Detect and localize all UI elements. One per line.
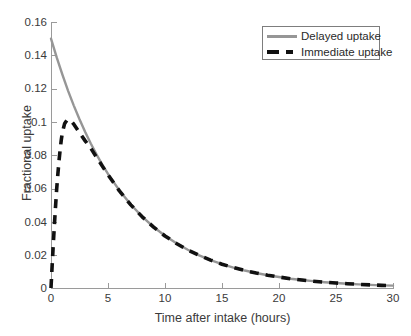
y-tick-label: 0.02 (2, 250, 47, 261)
chart-legend[interactable]: Delayed uptake Immediate uptake (262, 26, 380, 60)
x-tick-label: 20 (273, 292, 286, 304)
legend-item-delayed-uptake[interactable]: Delayed uptake (263, 28, 379, 44)
x-tick-label: 25 (330, 292, 343, 304)
y-tick-label: 0 (2, 283, 47, 294)
y-tick (52, 222, 57, 223)
y-tick (52, 22, 57, 23)
x-tick-label: 0 (48, 292, 54, 304)
y-tick-label: 0.14 (2, 50, 47, 61)
legend-label: Delayed uptake (301, 29, 381, 43)
x-axis-title: Time after intake (hours) (51, 311, 394, 325)
legend-item-immediate-uptake[interactable]: Immediate uptake (263, 44, 379, 60)
y-axis-title: Fractional uptake (20, 63, 34, 243)
x-tick (165, 283, 166, 288)
x-axis-line (51, 288, 394, 289)
x-tick (393, 283, 394, 288)
y-tick (52, 89, 57, 90)
series-delayed-uptake (51, 39, 393, 286)
x-tick (51, 283, 52, 288)
x-tick-label: 30 (387, 292, 400, 304)
y-tick (52, 255, 57, 256)
x-tick (222, 283, 223, 288)
y-tick (52, 55, 57, 56)
y-tick (52, 155, 57, 156)
y-tick (52, 288, 57, 289)
x-tick (336, 283, 337, 288)
x-tick-label: 5 (105, 292, 111, 304)
x-tick (108, 283, 109, 288)
x-tick-label: 10 (159, 292, 172, 304)
x-tick (279, 283, 280, 288)
chart-figure: 0.16 0.14 0.12 0.1 0.08 0.06 0.04 0.02 0… (0, 0, 411, 336)
y-tick-label: 0.16 (2, 17, 47, 28)
x-tick-label: 15 (216, 292, 229, 304)
legend-line-sample-dashed-icon (267, 50, 297, 54)
y-tick (52, 122, 57, 123)
y-tick (52, 189, 57, 190)
legend-line-sample-solid-icon (267, 35, 297, 38)
legend-label: Immediate uptake (301, 45, 392, 59)
series-immediate-uptake (51, 120, 393, 288)
